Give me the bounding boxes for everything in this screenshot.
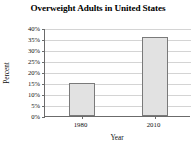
x-axis-tick-mark xyxy=(155,116,156,119)
y-axis-tick-mark xyxy=(42,62,45,63)
bar xyxy=(69,83,95,116)
x-axis-tick-mark xyxy=(82,116,83,119)
y-axis-tick-label: 10% xyxy=(28,92,40,99)
y-axis-tick-mark xyxy=(42,73,45,74)
x-axis-tick-label: 2010 xyxy=(147,121,161,128)
y-axis-tick-label: 25% xyxy=(28,59,40,66)
y-axis-tick-label: 35% xyxy=(28,37,40,44)
y-axis-tick-mark xyxy=(42,106,45,107)
gridline xyxy=(45,29,191,30)
plot-area: 0%5%10%15%20%25%30%35%40% xyxy=(44,29,190,117)
y-axis-tick-label: 0% xyxy=(31,114,40,121)
y-axis-tick-label: 5% xyxy=(31,103,40,110)
y-axis-title: Percent xyxy=(3,62,11,84)
y-axis-tick-label: 40% xyxy=(28,26,40,33)
y-axis-tick-mark xyxy=(42,84,45,85)
x-axis-title: Year xyxy=(110,134,123,142)
y-axis-tick-mark xyxy=(42,51,45,52)
bar xyxy=(142,37,168,116)
bar-chart-figure: Overweight Adults in United States Perce… xyxy=(0,0,196,152)
gridline xyxy=(45,51,191,52)
gridline xyxy=(45,95,191,96)
x-axis-tick-label: 1980 xyxy=(74,121,88,128)
gridline xyxy=(45,40,191,41)
chart-title: Overweight Adults in United States xyxy=(0,3,196,13)
y-axis-tick-label: 20% xyxy=(28,70,40,77)
gridline xyxy=(45,73,191,74)
y-axis-tick-mark xyxy=(42,95,45,96)
y-axis-tick-mark xyxy=(42,117,45,118)
gridline xyxy=(45,62,191,63)
y-axis-tick-mark xyxy=(42,40,45,41)
y-axis-tick-mark xyxy=(42,29,45,30)
y-axis-tick-label: 15% xyxy=(28,81,40,88)
gridline xyxy=(45,106,191,107)
y-axis-tick-label: 30% xyxy=(28,48,40,55)
gridline xyxy=(45,84,191,85)
